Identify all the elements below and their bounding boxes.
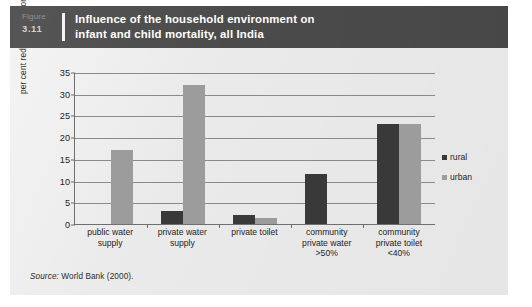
bar-rural bbox=[233, 215, 255, 224]
x-axis-label-line: supply bbox=[147, 238, 217, 249]
x-axis-label: private watersupply bbox=[146, 227, 218, 259]
y-tick-label: 20 bbox=[60, 133, 70, 143]
figure-title-line-1: Influence of the household environment o… bbox=[75, 12, 498, 27]
legend-item-rural: rural bbox=[442, 152, 502, 162]
y-tick-label: 15 bbox=[60, 155, 70, 165]
plot-area: 05101520253035 bbox=[74, 73, 435, 225]
bar-group bbox=[75, 73, 147, 224]
source-text: World Bank (2000). bbox=[61, 272, 133, 281]
x-axis-label-line: private water bbox=[292, 238, 362, 249]
chart-legend: ruralurban bbox=[442, 152, 502, 192]
figure-title: Influence of the household environment o… bbox=[65, 6, 508, 48]
x-axis-label-line: >50% bbox=[292, 248, 362, 259]
legend-label: urban bbox=[450, 172, 472, 182]
y-tick-mark bbox=[71, 225, 75, 226]
source-note: Source: World Bank (2000). bbox=[30, 272, 133, 281]
bar-groups bbox=[75, 73, 435, 224]
y-tick-label: 10 bbox=[60, 177, 70, 187]
x-axis-label-line: community bbox=[292, 227, 362, 238]
bar-group bbox=[291, 73, 363, 224]
x-axis-label-line: private toilet bbox=[219, 227, 289, 238]
x-axis-label-line: supply bbox=[75, 238, 145, 249]
x-axis-labels: public watersupplyprivate watersupplypri… bbox=[74, 227, 435, 259]
x-axis-label: private toilet bbox=[218, 227, 290, 259]
bar-urban bbox=[183, 85, 205, 224]
bar-urban bbox=[255, 218, 277, 225]
figure-title-line-2: infant and child mortality, all India bbox=[75, 27, 498, 42]
bar-urban bbox=[399, 124, 421, 224]
bar-group bbox=[363, 73, 435, 224]
x-axis-label-line: private water bbox=[147, 227, 217, 238]
y-tick-label: 5 bbox=[65, 198, 70, 208]
bar-group bbox=[219, 73, 291, 224]
bar-urban bbox=[111, 150, 133, 224]
legend-item-urban: urban bbox=[442, 172, 502, 182]
legend-swatch-rural bbox=[442, 155, 447, 160]
bar-rural bbox=[305, 174, 327, 224]
source-label: Source: bbox=[30, 272, 59, 281]
figure-number-word: Figure bbox=[22, 12, 46, 21]
figure-header: Figure 3.11 Influence of the household e… bbox=[10, 6, 508, 48]
x-axis-label-line: <40% bbox=[364, 248, 434, 259]
y-tick-label: 25 bbox=[60, 111, 70, 121]
x-axis-label: public watersupply bbox=[74, 227, 146, 259]
y-tick-label: 0 bbox=[65, 220, 70, 230]
x-axis-label-line: community bbox=[364, 227, 434, 238]
legend-swatch-urban bbox=[442, 175, 447, 180]
x-axis-label: communityprivate toilet<40% bbox=[363, 227, 435, 259]
bar-rural bbox=[377, 124, 399, 224]
y-tick-label: 35 bbox=[60, 68, 70, 78]
x-axis-label-line: public water bbox=[75, 227, 145, 238]
bar-rural bbox=[161, 211, 183, 224]
figure-number: Figure 3.11 bbox=[10, 6, 62, 48]
x-axis-label: communityprivate water>50% bbox=[291, 227, 363, 259]
bar-group bbox=[147, 73, 219, 224]
x-axis-label-line: private toilet bbox=[364, 238, 434, 249]
chart: per cent reduction in mortality 05101520… bbox=[22, 60, 492, 265]
y-tick-label: 30 bbox=[60, 90, 70, 100]
figure-container: Figure 3.11 Influence of the household e… bbox=[0, 0, 532, 307]
figure-number-value: 3.11 bbox=[22, 23, 42, 34]
legend-label: rural bbox=[450, 152, 467, 162]
